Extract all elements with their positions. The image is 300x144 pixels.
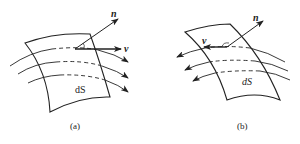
surface-patch-a <box>25 34 110 112</box>
figure-b: n v dS (b) <box>177 12 290 131</box>
surface-label-b: dS <box>242 76 252 87</box>
streamlines-b <box>177 47 290 82</box>
surface-patch-b <box>185 24 280 100</box>
normal-label-a: n <box>111 8 117 19</box>
surface-label-a: dS <box>75 84 86 95</box>
streamlines-a <box>10 48 128 92</box>
normal-vector-b <box>227 21 263 47</box>
velocity-label-b: v <box>202 35 207 46</box>
caption-b: (b) <box>237 121 248 131</box>
velocity-label-a: v <box>124 43 129 54</box>
normal-label-b: n <box>253 12 259 23</box>
diagram-canvas: n v dS (a) n v dS (b) <box>0 0 300 144</box>
caption-a: (a) <box>70 121 80 131</box>
figure-a: n v dS (a) <box>10 8 129 131</box>
